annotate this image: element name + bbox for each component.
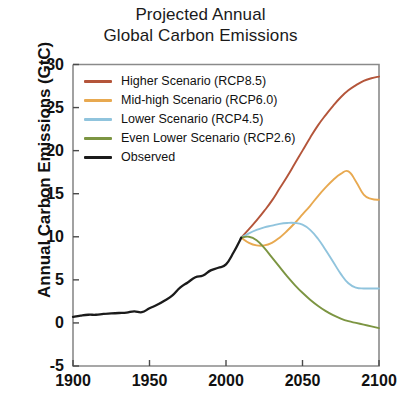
y-tick-label: 0: [30, 315, 64, 331]
x-tick-label: 1900: [43, 373, 103, 389]
legend-color-swatch: [84, 99, 112, 102]
x-tick-label: 2100: [349, 373, 401, 389]
x-tick-label: 2050: [273, 373, 333, 389]
y-tick-label: 20: [30, 143, 64, 159]
y-tick-label: 10: [30, 229, 64, 245]
legend-item[interactable]: Higher Scenario (RCP8.5): [84, 72, 314, 91]
x-tick-label: 2000: [196, 373, 256, 389]
legend-item[interactable]: Even Lower Scenario (RCP2.6): [84, 129, 314, 148]
series-line: [241, 223, 379, 289]
legend-item[interactable]: Mid-high Scenario (RCP6.0): [84, 91, 314, 110]
y-tick-label: 30: [30, 57, 64, 73]
chart-figure: Projected Annual Global Carbon Emissions…: [0, 0, 401, 404]
legend-item[interactable]: Lower Scenario (RCP4.5): [84, 110, 314, 129]
series-line: [73, 238, 241, 317]
legend-item-label: Observed: [121, 151, 175, 164]
legend-color-swatch: [84, 137, 112, 140]
series-line: [241, 237, 379, 328]
series-line: [241, 171, 379, 246]
x-tick-label: 1950: [120, 373, 180, 389]
legend-color-swatch: [84, 118, 112, 121]
chart-legend: Higher Scenario (RCP8.5)Mid-high Scenari…: [84, 72, 314, 167]
legend-item-label: Higher Scenario (RCP8.5): [121, 75, 266, 88]
legend-color-swatch: [84, 156, 112, 159]
y-tick-label: 25: [30, 100, 64, 116]
y-tick-label: 5: [30, 272, 64, 288]
legend-item-label: Lower Scenario (RCP4.5): [121, 113, 263, 126]
legend-item-label: Mid-high Scenario (RCP6.0): [121, 94, 277, 107]
legend-item[interactable]: Observed: [84, 148, 314, 167]
legend-color-swatch: [84, 80, 112, 83]
y-tick-label: 15: [30, 186, 64, 202]
legend-item-label: Even Lower Scenario (RCP2.6): [121, 132, 295, 145]
